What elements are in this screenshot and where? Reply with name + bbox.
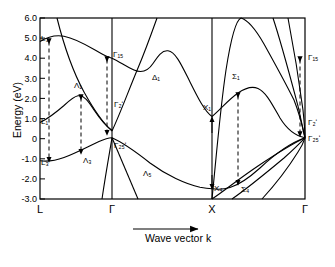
label-Lambda3: Λ₃ — [83, 156, 92, 165]
band-L3-to-Gamma15 — [40, 36, 112, 58]
label-L1: L₁ — [41, 117, 48, 126]
label-Delta1: Δ₁ — [152, 73, 160, 82]
label-G2p-center: Γ₂ʹ — [114, 100, 124, 109]
critical-point-labels: L₃ L₁ L₃ʹ Γ₁₅ Γ₂ʹ Γ₂₅ʹ X₁ X₄ Γ₁₅ Γ₂ʹ Γ₂₅… — [41, 34, 321, 193]
y-axis-ticks — [40, 18, 45, 199]
band-Delta1 — [112, 51, 212, 117]
label-Lambda1: Λ₁ — [74, 81, 82, 90]
xtick-gamma-1: Γ — [109, 203, 115, 215]
band-L1-Lambda1-Gamma2p — [40, 96, 112, 130]
label-X1: X₁ — [203, 103, 211, 112]
band-Lambda5 — [112, 138, 212, 189]
xtick-X: X — [208, 203, 216, 215]
band-valence-steep-a — [102, 138, 112, 199]
label-G15-center: Γ₁₅ — [113, 50, 123, 59]
label-X4: X₄ — [214, 184, 223, 193]
label-G25p-center: Γ₂₅ʹ — [114, 141, 127, 150]
label-Sigma4: Σ₄ — [241, 185, 249, 194]
band-valence-XG-c — [262, 138, 305, 199]
xtick-gamma-2: Γ — [302, 203, 308, 215]
ytick-8: -2.0 — [21, 174, 37, 184]
band-curves — [40, 18, 305, 199]
ytick-2: 4.0 — [24, 53, 37, 63]
label-Lambda5: Λ₅ — [143, 169, 152, 178]
ytick-7: -1.0 — [21, 154, 37, 164]
ytick-5: 1.0 — [24, 114, 37, 124]
x-tick-labels: L Γ X Γ — [37, 203, 308, 215]
band-upper-steep-L — [57, 18, 112, 131]
ytick-4: 2.0 — [24, 94, 37, 104]
band-X-steep-up — [212, 18, 241, 199]
x-axis-title: Wave vector k — [145, 232, 211, 244]
label-G2p-right: Γ₂ʹ — [308, 118, 318, 127]
ytick-1: 5.0 — [24, 33, 37, 43]
label-Sigma1: Σ₁ — [232, 72, 240, 81]
label-L3: L₃ — [41, 34, 49, 43]
band-Gamma2p-up — [112, 18, 157, 131]
ytick-0: 6.0 — [24, 13, 37, 23]
label-L3p: L₃ʹ — [41, 158, 51, 167]
label-G15-right: Γ₁₅ — [308, 53, 318, 62]
band-L3p-Lambda3 — [40, 138, 112, 161]
ytick-9: -3.0 — [21, 194, 37, 204]
y-tick-labels: 6.0 5.0 4.0 3.0 2.0 1.0 0 -1.0 -2.0 -3.0 — [21, 13, 37, 204]
band-structure-figure: 6.0 5.0 4.0 3.0 2.0 1.0 0 -1.0 -2.0 -3.0… — [0, 0, 335, 267]
label-G25p-right: Γ₂₅ʹ — [308, 134, 321, 143]
ytick-6: 0 — [32, 134, 37, 144]
xtick-L: L — [37, 203, 43, 215]
ytick-3: 3.0 — [24, 74, 37, 84]
band-valence-XG-a — [212, 138, 305, 199]
y-axis-title: Energy (eV) — [11, 65, 23, 155]
